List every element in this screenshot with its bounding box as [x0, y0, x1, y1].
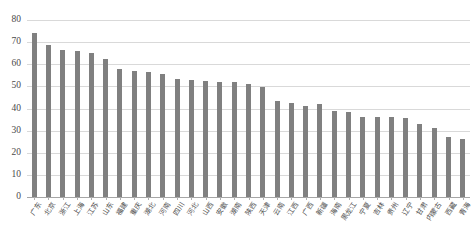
x-axis-label: 安徽: [215, 201, 228, 217]
bar: [203, 81, 208, 197]
bar: [146, 72, 151, 197]
y-axis-tick-label: 0: [0, 192, 21, 202]
x-axis-label: 浙江: [58, 201, 71, 217]
bar: [260, 87, 265, 197]
bar-chart: 01020304050607080 广东北京浙江上海江苏山东福建重庆湖北河南四川…: [0, 0, 472, 246]
x-axis-label: 重庆: [130, 201, 143, 217]
bar: [446, 137, 451, 197]
bar: [246, 84, 251, 197]
bar: [132, 71, 137, 197]
x-axis-label: 湖北: [144, 201, 157, 217]
bar: [332, 111, 337, 197]
bar: [460, 139, 465, 197]
bar: [103, 59, 108, 197]
y-axis-tick-label: 40: [0, 104, 21, 114]
bar: [32, 33, 37, 197]
x-axis-label: 青海: [458, 201, 471, 217]
x-axis-label: 湖南: [230, 201, 243, 217]
x-axis-label: 广东: [30, 201, 43, 217]
x-axis-label: 北京: [44, 201, 57, 217]
plot-area: [27, 20, 470, 197]
bar: [389, 117, 394, 197]
bar: [189, 80, 194, 197]
bar: [360, 117, 365, 197]
y-axis-tick-label: 60: [0, 60, 21, 70]
bar-series: [27, 20, 470, 197]
x-axis-label: 江苏: [87, 201, 100, 217]
x-axis-label: 四川: [173, 201, 186, 217]
bar: [275, 101, 280, 197]
bar: [432, 128, 437, 197]
x-axis-label: 上海: [73, 201, 86, 217]
y-axis-tick-label: 30: [0, 126, 21, 136]
y-axis-tick-label: 50: [0, 82, 21, 92]
bar: [232, 82, 237, 197]
x-axis-label: 山东: [101, 201, 114, 217]
x-axis-labels: 广东北京浙江上海江苏山东福建重庆湖北河南四川河北山西安徽湖南陕西天津云南江西广西…: [27, 199, 470, 246]
x-axis-label: 陕西: [244, 201, 257, 217]
x-axis-label: 新疆: [316, 201, 329, 217]
y-axis-tick-label: 70: [0, 37, 21, 47]
x-axis-label: 天津: [258, 201, 271, 217]
y-axis-tick-label: 20: [0, 148, 21, 158]
bar: [417, 124, 422, 197]
y-axis-tick-label: 10: [0, 170, 21, 180]
bar: [60, 50, 65, 197]
bar: [346, 112, 351, 197]
x-axis-label: 江西: [287, 201, 300, 217]
x-axis-label: 宁夏: [358, 201, 371, 217]
bar: [117, 69, 122, 197]
bar: [217, 82, 222, 197]
x-axis-label: 吉林: [373, 201, 386, 217]
x-axis-label: 辽宁: [401, 201, 414, 217]
x-axis-label: 广西: [301, 201, 314, 217]
x-axis-label: 河南: [158, 201, 171, 217]
x-axis-label: 河北: [187, 201, 200, 217]
bar: [75, 51, 80, 197]
bar: [89, 53, 94, 197]
x-axis-label: 山西: [201, 201, 214, 217]
bar: [160, 74, 165, 197]
bar: [175, 79, 180, 197]
x-axis-label: 西藏: [444, 201, 457, 217]
bar: [317, 104, 322, 197]
bar: [375, 117, 380, 197]
x-axis-label: 福建: [115, 201, 128, 217]
bar: [403, 118, 408, 197]
x-axis-label: 云南: [273, 201, 286, 217]
bar: [289, 103, 294, 197]
x-axis-label: 贵州: [387, 201, 400, 217]
y-axis-tick-label: 80: [0, 15, 21, 25]
bar: [303, 106, 308, 197]
bar: [46, 45, 51, 197]
